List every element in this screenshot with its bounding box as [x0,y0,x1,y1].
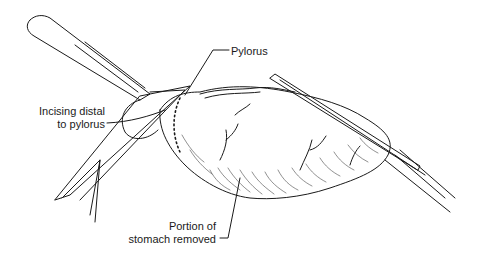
label-incising-line1: Incising distal [10,105,105,118]
label-incising-distal: Incising distal to pylorus [10,105,105,131]
pylorus-dotted-line [174,98,180,152]
surgical-illustration: Pylorus Incising distal to pylorus Porti… [0,0,481,256]
stomach-outline [160,87,390,199]
portion-leader-line [220,178,240,238]
label-portion-line2: stomach removed [128,233,216,246]
label-portion-removed: Portion of stomach removed [128,220,216,246]
clamp-jaws-left [55,86,190,200]
label-portion-line1: Portion of [128,220,216,233]
label-incising-line2: to pylorus [10,118,105,131]
label-pylorus: Pylorus [231,45,268,58]
